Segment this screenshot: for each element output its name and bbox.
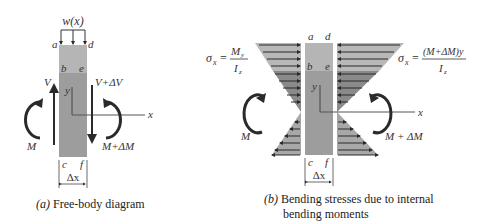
caption-a: (a) Free-body diagram (36, 197, 145, 211)
axis-x-label: x (147, 108, 153, 120)
stress-left-top-light (255, 43, 301, 71)
corner-c-b: c (308, 156, 313, 168)
distributed-load-icon (61, 30, 85, 44)
width-label-b: Δx (313, 169, 326, 181)
moment-left-label-b: M (240, 130, 251, 142)
stress-right-bottom (337, 112, 378, 155)
svg-text:x: x (404, 58, 409, 67)
corner-b: b (61, 62, 67, 74)
shear-right-label: V+ΔV (95, 76, 124, 88)
caption-b-line1: (b) Bending stresses due to internal (264, 192, 434, 206)
svg-text:z: z (238, 68, 242, 76)
corner-c: c (62, 158, 67, 170)
corner-e-b: e (325, 60, 330, 72)
svg-text:M: M (230, 45, 241, 57)
moment-right-label-b: M + ΔM (384, 130, 424, 142)
corner-a: a (52, 38, 58, 50)
caption-b-line2: bending moments (283, 207, 369, 221)
corner-f: f (80, 158, 85, 170)
stress-left-top-dark (273, 71, 301, 112)
corner-d: d (88, 38, 94, 50)
corner-a-b: a (308, 30, 314, 42)
bending-diagram: w(x) a d b e c f y x V V+ΔV M M+ΔM Δx (0, 0, 484, 224)
corner-b-b: b (307, 60, 313, 72)
moment-m-plus-dm-arrow-icon (105, 102, 121, 138)
svg-text:σ: σ (206, 51, 213, 65)
svg-text:σ: σ (398, 51, 405, 65)
corner-e: e (79, 62, 84, 74)
formula-right: σ x = (M+ΔM)y I z (398, 46, 466, 76)
width-label: Δx (67, 171, 80, 183)
svg-text:=: = (220, 51, 227, 65)
svg-text:=: = (412, 51, 419, 65)
moment-right-label: M+ΔM (101, 140, 135, 152)
svg-text:(M+ΔM)y: (M+ΔM)y (423, 46, 464, 58)
panel-b-bending-stresses: a d b e c f y x σ x = M y I z σ x = (M+Δ… (206, 30, 466, 221)
stress-left-bottom (272, 112, 301, 155)
panel-a-free-body-diagram: w(x) a d b e c f y x V V+ΔV M M+ΔM Δx (25, 14, 153, 211)
shear-left-label: V (44, 76, 52, 88)
load-label: w(x) (62, 14, 83, 28)
formula-left: σ x = M y I z (206, 45, 248, 76)
svg-text:x: x (212, 58, 217, 67)
svg-text:z: z (443, 68, 447, 76)
corner-d-b: d (325, 30, 331, 42)
stress-right-top-dark (337, 71, 379, 112)
axis-y-label: y (64, 84, 70, 96)
svg-text:y: y (240, 51, 245, 59)
beam-body-b (305, 71, 333, 155)
moment-m-arrow-icon (25, 102, 41, 138)
corner-f-b: f (325, 156, 330, 168)
axis-y-label-b: y (311, 80, 317, 92)
axis-x-label-b: x (417, 106, 423, 118)
moment-left-label: M (26, 140, 37, 152)
stress-right-top-light (337, 43, 404, 71)
